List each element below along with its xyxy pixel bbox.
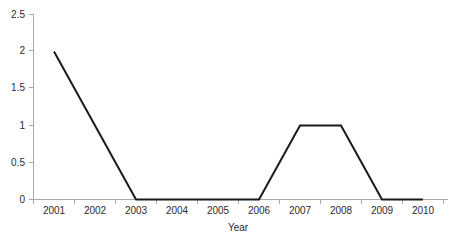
x-axis-title: Year (228, 222, 249, 233)
x-tick-label-2002: 2002 (84, 205, 107, 216)
x-tick-label-2009: 2009 (371, 205, 394, 216)
y-tick-label-1: 0.5 (11, 157, 25, 168)
y-tick-label-2: 1 (19, 120, 25, 131)
y-tick-label-4: 2 (19, 45, 25, 56)
y-tick-label-5: 2.5 (11, 9, 25, 20)
x-tick-label-2006: 2006 (248, 205, 271, 216)
x-tick-label-2005: 2005 (207, 205, 230, 216)
x-tick-label-2001: 2001 (43, 205, 66, 216)
chart-canvas: 0 0.5 1 1.5 2 2.5 2001 2002 2003 2004 20… (0, 0, 455, 238)
x-tick-label-2003: 2003 (125, 205, 148, 216)
y-tick-label-0: 0 (19, 194, 25, 205)
x-tick-label-2004: 2004 (166, 205, 189, 216)
x-tick-label-2008: 2008 (330, 205, 353, 216)
x-tick-label-2010: 2010 (412, 205, 435, 216)
x-tick-label-2007: 2007 (289, 205, 312, 216)
y-tick-label-3: 1.5 (11, 82, 25, 93)
line-chart: 0 0.5 1 1.5 2 2.5 2001 2002 2003 2004 20… (0, 0, 455, 238)
chart-background (0, 0, 455, 238)
